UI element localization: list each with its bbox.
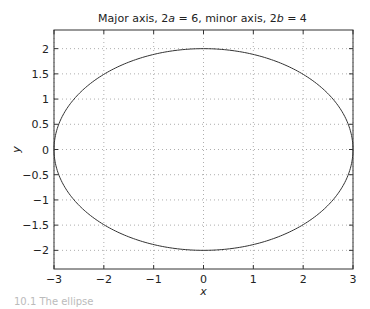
x-tick-label: −1: [146, 273, 162, 286]
y-tick-label: −2: [33, 244, 49, 257]
y-tick-label: −1.5: [22, 219, 49, 232]
figure-caption: 10.1 The ellipse: [14, 296, 93, 307]
y-tick-label: 0.5: [32, 118, 50, 131]
y-axis-label: y: [10, 146, 23, 154]
x-tick-label: −2: [96, 273, 112, 286]
y-tick-label: 1: [42, 93, 49, 106]
x-tick-label: 1: [250, 273, 257, 286]
y-tick-label: −0.5: [22, 169, 49, 182]
x-tick-label: 3: [350, 273, 357, 286]
x-tick-label: −3: [46, 273, 62, 286]
x-tick-label: 2: [300, 273, 307, 286]
grid-lines: [54, 30, 353, 269]
x-axis-label: x: [199, 285, 207, 298]
y-tick-label: −1: [33, 194, 49, 207]
ellipse-plot: −3−2−10123−2−1.5−1−0.500.511.52 x y: [0, 0, 370, 309]
y-tick-label: 1.5: [32, 68, 50, 81]
y-tick-label: 0: [42, 144, 49, 157]
y-tick-label: 2: [42, 43, 49, 56]
